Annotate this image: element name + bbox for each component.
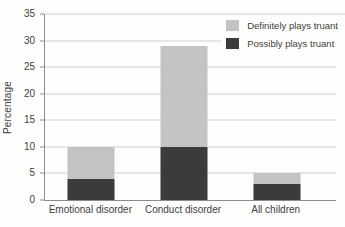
plot-area: Definitely plays truantPossibly plays tr… <box>44 14 336 201</box>
y-tick-label-0: 0 <box>29 195 35 205</box>
stacked-bar-0 <box>68 14 115 200</box>
stacked-bar-1 <box>161 14 208 200</box>
bar-segment <box>161 46 208 147</box>
y-tick-label-25: 25 <box>24 62 35 72</box>
x-axis-label-1: Conduct disorder <box>137 204 230 215</box>
x-axis-label-2: All children <box>229 204 322 215</box>
bar-segment <box>68 147 115 179</box>
y-tick-label-15: 15 <box>24 115 35 125</box>
y-tick-label-30: 30 <box>24 36 35 46</box>
bar-slot-0 <box>45 14 138 200</box>
y-tick-label-5: 5 <box>29 168 35 178</box>
x-axis-label-0: Emotional disorder <box>44 204 137 215</box>
legend-label: Possibly plays truant <box>247 38 334 49</box>
y-tick-label-20: 20 <box>24 89 35 99</box>
y-tick-label-35: 35 <box>24 9 35 19</box>
bar-segment <box>68 179 115 200</box>
bar-segment <box>253 173 300 184</box>
legend-item: Definitely plays truant <box>226 20 338 31</box>
legend-item: Possibly plays truant <box>226 38 338 49</box>
legend-swatch-icon <box>226 38 239 49</box>
legend: Definitely plays truantPossibly plays tr… <box>221 17 343 52</box>
x-axis-labels: Emotional disorderConduct disorderAll ch… <box>44 204 322 215</box>
legend-label: Definitely plays truant <box>247 20 338 31</box>
y-tick-label-10: 10 <box>24 142 35 152</box>
y-axis: 05101520253035 <box>0 14 44 200</box>
bar-slot-1 <box>138 14 231 200</box>
legend-swatch-icon <box>226 20 239 31</box>
bar-segment <box>253 184 300 200</box>
bar-segment <box>161 147 208 200</box>
